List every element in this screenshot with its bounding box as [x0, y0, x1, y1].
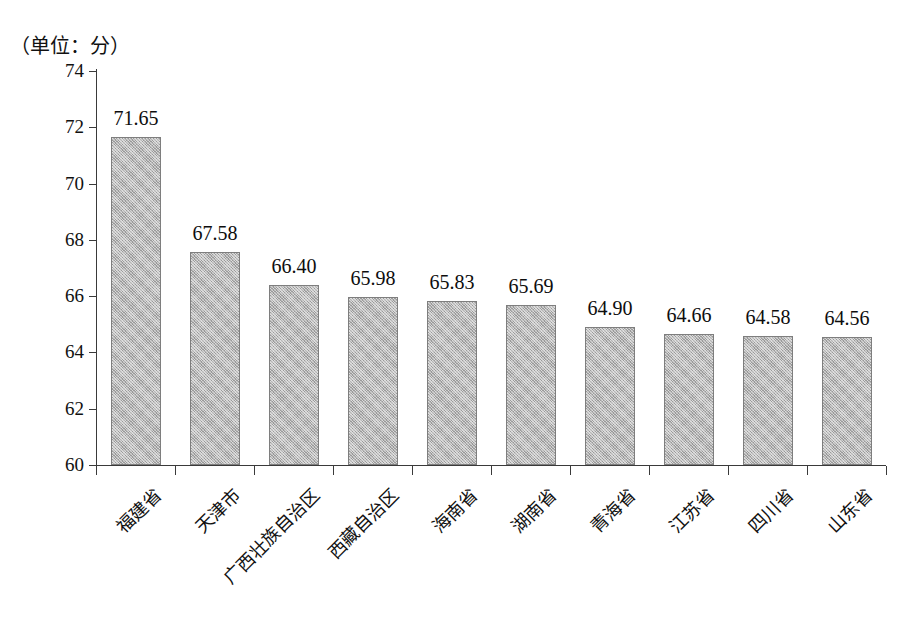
- x-tick-mark: [570, 466, 571, 475]
- bar-value-label: 65.69: [486, 276, 576, 296]
- y-tick-label-wrap: 72: [28, 117, 84, 136]
- x-tick-mark: [175, 466, 176, 475]
- y-tick-label-wrap: 60: [28, 455, 84, 474]
- y-tick-label-wrap: 62: [28, 399, 84, 418]
- x-tick-mark: [807, 466, 808, 475]
- bar-value-label: 64.90: [565, 298, 655, 318]
- y-tick-mark: [89, 71, 97, 72]
- x-tick-mark: [649, 466, 650, 475]
- bar-value-label: 65.98: [328, 268, 418, 288]
- y-axis-line: [96, 69, 97, 467]
- y-tick-label: 68: [44, 230, 84, 249]
- category-label: 西藏自治区: [324, 485, 402, 563]
- category-label: 天津市: [192, 485, 244, 537]
- bar-value-label: 64.66: [644, 305, 734, 325]
- category-label: 海南省: [429, 485, 481, 537]
- y-tick-label-wrap: 64: [28, 342, 84, 361]
- y-tick-mark: [89, 184, 97, 185]
- bar-chart: （单位：分） 7472706866646260 71.6567.5866.406…: [0, 0, 914, 634]
- y-tick-mark: [89, 240, 97, 241]
- bar-value-label: 64.56: [802, 308, 892, 328]
- y-tick-mark: [89, 409, 97, 410]
- bar: [427, 301, 477, 465]
- y-tick-label: 72: [44, 117, 84, 136]
- category-label: 四川省: [745, 485, 797, 537]
- bar: [664, 334, 714, 465]
- bar: [111, 137, 161, 465]
- category-label: 山东省: [824, 485, 876, 537]
- bar-value-label: 67.58: [170, 223, 260, 243]
- x-tick-mark: [491, 466, 492, 475]
- category-label: 江苏省: [666, 485, 718, 537]
- y-tick-label-wrap: 70: [28, 174, 84, 193]
- bar: [585, 327, 635, 465]
- category-label: 湖南省: [508, 485, 560, 537]
- x-tick-mark: [96, 466, 97, 475]
- y-tick-label: 62: [44, 399, 84, 418]
- y-tick-label-wrap: 68: [28, 230, 84, 249]
- y-tick-label-wrap: 66: [28, 286, 84, 305]
- category-label: 福建省: [113, 485, 165, 537]
- bar-value-label: 65.83: [407, 272, 497, 292]
- bar: [348, 297, 398, 465]
- y-tick-mark: [89, 296, 97, 297]
- bar: [269, 285, 319, 465]
- y-tick-label: 74: [44, 61, 84, 80]
- x-tick-mark: [333, 466, 334, 475]
- bar-value-label: 66.40: [249, 256, 339, 276]
- x-tick-mark: [412, 466, 413, 475]
- y-tick-label: 66: [44, 286, 84, 305]
- y-tick-mark: [89, 352, 97, 353]
- unit-label: （单位：分）: [10, 30, 130, 59]
- bar: [743, 336, 793, 465]
- y-tick-label: 64: [44, 342, 84, 361]
- y-tick-label: 70: [44, 174, 84, 193]
- bar: [506, 305, 556, 465]
- y-tick-label-wrap: 74: [28, 61, 84, 80]
- bar-value-label: 64.58: [723, 307, 813, 327]
- category-label: 青海省: [587, 485, 639, 537]
- y-tick-label: 60: [44, 455, 84, 474]
- bar-value-label: 71.65: [91, 108, 181, 128]
- x-tick-mark: [886, 466, 887, 475]
- x-tick-mark: [728, 466, 729, 475]
- bar: [822, 337, 872, 465]
- bar: [190, 252, 240, 465]
- x-tick-mark: [254, 466, 255, 475]
